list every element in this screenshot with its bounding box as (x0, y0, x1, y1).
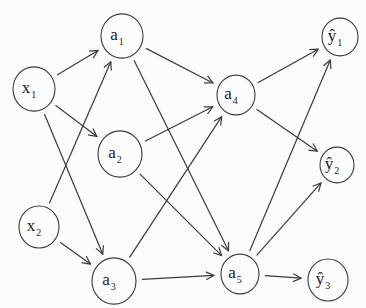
edge-a1-to-a4 (146, 48, 213, 83)
node-label-subscript: 4 (233, 95, 238, 106)
node-label-subscript: 3 (325, 280, 330, 291)
node-label-base: ŷ (325, 154, 334, 173)
edge-a3-to-a4 (129, 117, 221, 258)
edge-a4-to-y2 (257, 109, 318, 151)
node-label-subscript: 1 (337, 37, 342, 48)
node-label: a4 (224, 84, 238, 106)
node-a5: a5 (221, 254, 259, 294)
node-label-subscript: 1 (31, 89, 36, 100)
node-label: a2 (108, 143, 122, 165)
node-y2: ŷ2 (320, 147, 354, 183)
node-label-subscript: 2 (117, 154, 122, 165)
node-label-subscript: 2 (334, 165, 339, 176)
node-label-base: a (224, 84, 232, 103)
node-a4: a4 (217, 75, 255, 115)
edge-a5-to-y1 (250, 60, 331, 251)
neural-network-diagram: x1x2a1a2a3a4a5ŷ1ŷ2ŷ3 (0, 0, 366, 308)
node-x2: x2 (19, 206, 59, 248)
nodes-layer: x1x2a1a2a3a4a5ŷ1ŷ2ŷ3 (13, 14, 358, 304)
node-label: a3 (102, 270, 116, 292)
edge-a5-to-y3 (265, 276, 301, 279)
node-label-base: a (102, 270, 110, 289)
node-label-base: a (108, 143, 116, 162)
edge-a2-to-a4 (145, 107, 213, 142)
node-label: x2 (27, 216, 42, 238)
edge-a1-to-a5 (134, 60, 229, 251)
node-y3: ŷ3 (308, 259, 348, 301)
node-label: a5 (228, 263, 242, 285)
node-a3: a3 (92, 258, 136, 304)
node-a2: a2 (98, 131, 142, 177)
edge-x1-to-a1 (57, 50, 98, 75)
node-label-subscript: 2 (36, 227, 41, 238)
edge-a3-to-a5 (142, 275, 214, 279)
node-a1: a1 (101, 14, 143, 58)
node-label-base: x (27, 216, 36, 235)
edge-x2-to-a3 (60, 242, 90, 264)
edge-x1-to-a2 (56, 105, 97, 136)
node-label-subscript: 3 (111, 281, 116, 292)
edges-layer (44, 48, 330, 279)
node-label-base: ŷ (316, 269, 325, 288)
node-label-base: a (228, 263, 236, 282)
node-label-subscript: 1 (119, 36, 124, 47)
node-y1: ŷ1 (322, 18, 358, 56)
edge-a4-to-y1 (258, 49, 318, 83)
node-label-base: ŷ (328, 26, 337, 45)
node-label: ŷ3 (316, 269, 331, 291)
diagram-canvas: x1x2a1a2a3a4a5ŷ1ŷ2ŷ3 (0, 0, 366, 308)
node-x1: x1 (13, 67, 55, 111)
node-label: a1 (110, 25, 124, 47)
node-label: ŷ1 (328, 26, 343, 48)
edge-x2-to-a1 (49, 62, 110, 204)
edge-a5-to-y2 (257, 183, 321, 255)
node-label-subscript: 5 (237, 274, 242, 285)
node-label: ŷ2 (325, 154, 340, 176)
edge-a2-to-a5 (140, 174, 222, 256)
node-label-base: x (22, 78, 31, 97)
node-label: x1 (22, 78, 37, 100)
node-label-base: a (110, 25, 118, 44)
